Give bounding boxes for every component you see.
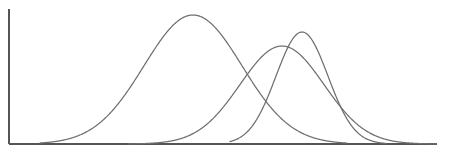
distribution-curve-1 <box>40 15 347 143</box>
curves-group <box>40 15 436 144</box>
axes-group <box>9 9 437 144</box>
plot-area <box>0 0 466 152</box>
distribution-curve-3 <box>230 32 386 143</box>
bell-curve-figure <box>0 0 466 152</box>
